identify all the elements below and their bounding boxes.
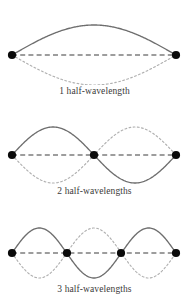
node-dot — [117, 249, 125, 257]
node-dot — [172, 249, 180, 257]
harmonic-panel-2: 2 half-wavelengths — [0, 100, 189, 200]
node-dot — [8, 151, 16, 159]
harmonic-3-diagram — [0, 200, 189, 283]
standing-wave-figure: 1 half-wavelength 2 half-wavelengths 3 h… — [0, 0, 189, 305]
harmonic-3-caption: 3 half-wavelengths — [0, 283, 189, 295]
node-dot — [172, 151, 180, 159]
harmonic-2-caption: 2 half-wavelengths — [0, 185, 189, 197]
harmonic-panel-1: 1 half-wavelength — [0, 0, 189, 100]
harmonic-1-caption: 1 half-wavelength — [0, 85, 189, 97]
harmonic-1-diagram — [0, 0, 189, 85]
node-dot — [63, 249, 71, 257]
node-dot — [8, 51, 16, 59]
harmonic-2-diagram — [0, 100, 189, 185]
node-dot — [90, 151, 98, 159]
node-dot — [8, 249, 16, 257]
wave-curve-solid — [12, 25, 176, 55]
wave-curve-dotted — [12, 55, 176, 85]
harmonic-panel-3: 3 half-wavelengths — [0, 200, 189, 305]
node-dot — [172, 51, 180, 59]
